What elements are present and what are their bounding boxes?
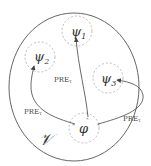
marker-x-3: × xyxy=(97,122,100,127)
phi-label: φ xyxy=(79,121,89,136)
marker-x-1: × xyxy=(72,122,75,127)
psi2-label: ψ2 xyxy=(34,49,49,66)
psi1-label: ψ1 xyxy=(71,24,86,41)
edge-phi-psi1 xyxy=(76,38,88,117)
psi3-label: ψ3 xyxy=(101,71,116,88)
region-v-label: 𝒱 xyxy=(39,130,58,149)
edge-label-psi3: PREτ xyxy=(123,115,141,123)
diagram-canvas: × × × ψ1 ψ2 ψ3 φ PREτ PREτ PREτ 𝒱 xyxy=(0,0,151,166)
edge-label-psi2: PREτ xyxy=(24,108,42,116)
edge-label-psi1: PREτ xyxy=(54,76,72,84)
